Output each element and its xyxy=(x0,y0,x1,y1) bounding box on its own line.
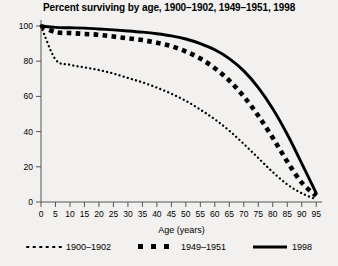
legend-item: 1949–1951 xyxy=(137,242,226,252)
x-tick-label: 75 xyxy=(254,209,264,219)
legend-item: 1998 xyxy=(252,242,312,252)
x-tick-label: 50 xyxy=(181,209,191,219)
y-tick-label: 100 xyxy=(19,21,33,31)
y-tick-label: 20 xyxy=(24,162,34,172)
x-tick-label: 15 xyxy=(80,209,90,219)
x-tick-label: 40 xyxy=(152,209,162,219)
y-axis: 020406080100 xyxy=(19,20,41,207)
x-tick-label: 25 xyxy=(109,209,119,219)
legend-item: 1900–1902 xyxy=(26,242,111,252)
legend-label: 1949–1951 xyxy=(181,243,226,252)
chart-legend: 1900–1902 1949–1951 1998 xyxy=(0,242,338,252)
y-tick-label: 40 xyxy=(24,127,34,137)
x-tick-label: 0 xyxy=(39,209,44,219)
chart-container: Percent surviving by age, 1900–1902, 194… xyxy=(0,0,338,266)
dashed-square-swatch xyxy=(137,242,177,252)
x-axis: 05101520253035404550556065707580859095 xyxy=(39,202,322,219)
x-tick-label: 65 xyxy=(225,209,235,219)
y-tick-label: 0 xyxy=(28,197,33,207)
y-tick-label: 80 xyxy=(24,56,34,66)
x-tick-label: 45 xyxy=(167,209,177,219)
y-tick-label: 60 xyxy=(24,91,34,101)
x-tick-label: 55 xyxy=(196,209,206,219)
solid-line-swatch xyxy=(252,242,288,252)
x-tick-label: 10 xyxy=(65,209,75,219)
x-tick-label: 70 xyxy=(239,209,249,219)
x-tick-label: 95 xyxy=(311,209,321,219)
x-tick-label: 20 xyxy=(94,209,104,219)
x-tick-label: 85 xyxy=(283,209,293,219)
dotted-line-swatch xyxy=(26,242,62,252)
x-tick-label: 80 xyxy=(268,209,278,219)
x-axis-title: Age (years) xyxy=(158,225,205,235)
x-tick-label: 60 xyxy=(210,209,220,219)
data-series-layer xyxy=(41,26,316,199)
series-1998 xyxy=(41,26,316,193)
plot-area: 020406080100 051015202530354045505560657… xyxy=(0,0,338,240)
x-tick-label: 30 xyxy=(123,209,133,219)
x-tick-label: 90 xyxy=(297,209,307,219)
legend-label: 1900–1902 xyxy=(66,243,111,252)
x-tick-label: 5 xyxy=(53,209,58,219)
legend-label: 1998 xyxy=(292,243,312,252)
x-tick-label: 35 xyxy=(138,209,148,219)
